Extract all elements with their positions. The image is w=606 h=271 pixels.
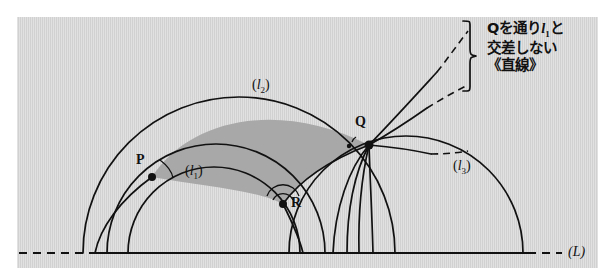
curve-label-l1-paren-close: ) <box>198 163 203 178</box>
baseline-label: (L) <box>568 244 585 260</box>
curve-label-l3-paren-close: ) <box>466 158 471 173</box>
point-label-r: R <box>291 195 301 211</box>
point-dot-p <box>148 173 156 181</box>
point-label-q: Q <box>355 114 366 130</box>
annotation-line-2: 交差しない <box>487 40 564 57</box>
annotation-brace <box>463 21 476 91</box>
annotation-text: Qを通りl1と 交差しない 《直線》 <box>487 20 564 74</box>
curve-label-l2: (l2) <box>252 77 270 95</box>
annotation-line-1-pre: Qを通り <box>487 20 541 36</box>
nonintersecting-line-2-dashed <box>427 85 468 108</box>
nonintersecting-line-3-solid <box>369 145 431 154</box>
annotation-line-3: 《直線》 <box>487 57 564 74</box>
figure-canvas: P Q R (l1) (l2) (l3) (L) Qを通りl1と 交差しない 《… <box>0 0 606 271</box>
curve-label-l2-paren-close: ) <box>265 77 270 92</box>
nonintersecting-line-1-dashed <box>437 31 468 72</box>
annotation-line-1: Qを通りl1と <box>487 20 564 40</box>
annotation-line-1-italic-l: l1 <box>541 20 550 36</box>
curve-label-l1: (l1) <box>185 163 203 181</box>
shaded-hyperbolic-triangle <box>152 120 369 204</box>
point-label-p: P <box>136 152 145 168</box>
curve-label-l3: (l3) <box>453 158 471 176</box>
point-dot-q <box>365 141 374 150</box>
arc-l2-left-tail <box>95 177 152 253</box>
annotation-line-1-post: と <box>550 20 564 36</box>
arc-q-to-baseline-4 <box>369 145 373 253</box>
arc-q-to-baseline-3 <box>359 145 369 253</box>
point-dot-r <box>279 200 287 208</box>
point-dot-q-small-marker <box>347 144 351 148</box>
